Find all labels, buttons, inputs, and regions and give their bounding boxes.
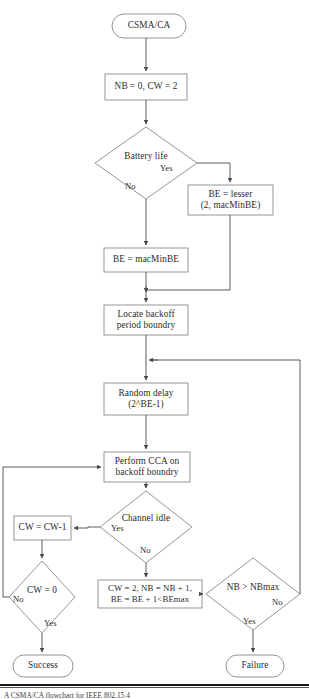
- node-shape-success: [13, 655, 73, 677]
- edge-channel-cw-dec: [74, 527, 100, 528]
- node-shape-locate: [104, 305, 188, 335]
- caption-divider: [0, 684, 309, 686]
- node-shape-failure: [226, 655, 284, 677]
- edge-cwzero-loop: [3, 467, 101, 597]
- node-shape-start: [112, 14, 186, 38]
- caption-divider-thin: [0, 687, 309, 688]
- node-shape-be-macminbe: [104, 248, 188, 272]
- flowchart-canvas: [0, 0, 309, 699]
- node-shape-be-lesser: [188, 185, 273, 215]
- node-shape-cw-dec: [14, 516, 71, 540]
- node-shape-channel-idle: [100, 491, 192, 563]
- figure-caption: A CSMA/CA flowchart for IEEE 802.15.4: [4, 692, 130, 699]
- node-shape-init: [105, 74, 187, 100]
- node-shape-backoff-inc: [98, 580, 202, 608]
- node-shape-perform-cca: [104, 452, 190, 482]
- edge-nbmax-loop: [152, 360, 300, 594]
- node-shape-random-delay: [104, 383, 188, 415]
- flowchart-container: CSMA/CA NB = 0, CW = 2 Battery life BE =…: [0, 0, 309, 699]
- node-shape-battery: [95, 127, 197, 199]
- node-shape-cw-zero: [9, 561, 75, 633]
- edge-battery-be-lesser: [197, 163, 230, 182]
- node-shape-nb-max: [206, 558, 300, 630]
